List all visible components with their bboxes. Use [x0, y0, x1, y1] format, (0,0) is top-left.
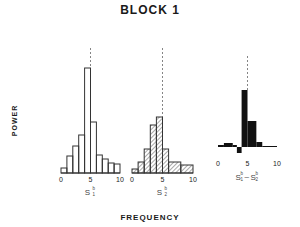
histogram-bar: [163, 149, 169, 173]
x-tick-label: 10: [116, 176, 124, 183]
histogram-bar: [79, 135, 85, 173]
panel-label: S: [85, 188, 90, 197]
histogram-bar: [132, 169, 138, 173]
panel-label: S: [157, 188, 162, 197]
panel-label-sub: 1: [93, 192, 96, 197]
histogram-bar: [233, 145, 237, 147]
histogram-bar: [102, 159, 108, 173]
histogram-s2: 0510Sb2: [130, 48, 197, 197]
histogram-bar: [224, 143, 233, 147]
panel-label-sub: 1: [241, 177, 244, 182]
panel-label-sup: b: [165, 186, 168, 191]
histogram-bar: [256, 142, 262, 147]
panel-label-sup: b: [241, 171, 244, 176]
x-tick-label: 10: [273, 160, 281, 167]
histogram-bar: [91, 122, 97, 173]
histogram-bar: [144, 149, 150, 173]
histogram-bar: [169, 162, 181, 173]
histogram-bar: [156, 117, 162, 173]
histogram-bar: [85, 68, 91, 173]
x-tick-label: 5: [89, 176, 93, 183]
panel-label-sup: b: [93, 186, 96, 191]
histogram-bar: [67, 156, 73, 173]
histogram-panels: 0510Sb1 0510Sb2 0510Sb1–Sb2: [0, 0, 300, 227]
histogram-bar: [73, 146, 79, 173]
histogram-bar: [262, 146, 277, 147]
histogram-bar: [242, 90, 248, 147]
histogram-bar: [96, 155, 102, 173]
panel-label-minus: –: [245, 172, 250, 181]
panel-label-sub-2: 2: [256, 177, 259, 182]
panel-label-sub: 2: [165, 192, 168, 197]
histogram-bar: [150, 125, 156, 173]
histogram-bar: [248, 121, 257, 147]
histogram-bar: [138, 162, 144, 173]
histogram-bar: [181, 165, 193, 173]
histogram-difference: 0510Sb1–Sb2: [216, 56, 281, 182]
x-tick-label: 0: [59, 176, 63, 183]
histogram-s1: 0510Sb1: [59, 48, 124, 197]
histogram-bar: [114, 164, 120, 173]
x-tick-label: 5: [246, 160, 250, 167]
histogram-bar: [61, 168, 67, 173]
histogram-bar: [108, 163, 114, 173]
x-tick-label: 0: [130, 176, 134, 183]
panel-label-sup-2: b: [256, 171, 259, 176]
x-tick-label: 0: [216, 160, 220, 167]
x-tick-label: 10: [189, 176, 197, 183]
histogram-bar: [237, 147, 242, 153]
histogram-bar: [218, 145, 224, 147]
x-tick-label: 5: [161, 176, 165, 183]
